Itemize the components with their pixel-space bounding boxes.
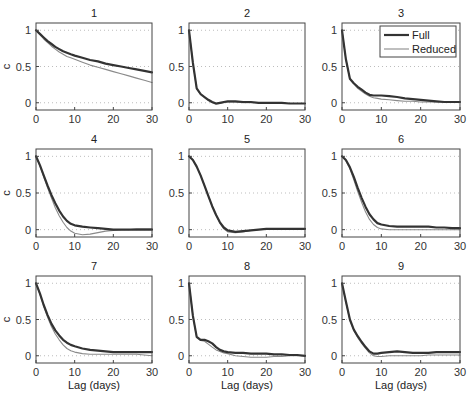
x-tick-label: 20 — [260, 240, 272, 252]
x-axis-label: Lag (days) — [375, 379, 427, 391]
figure-canvas: 010203000.511c010203000.512010203000.513… — [0, 0, 471, 400]
x-tick-label: 30 — [454, 113, 466, 125]
x-tick-label: 10 — [222, 240, 234, 252]
y-tick-label: 0 — [25, 224, 31, 236]
y-tick-label: 0.5 — [16, 314, 31, 326]
x-tick-label: 0 — [339, 113, 345, 125]
series-line-full — [36, 156, 152, 229]
x-tick-label: 30 — [299, 113, 311, 125]
y-tick-label: 0.5 — [169, 314, 184, 326]
legend: FullReduced — [380, 26, 456, 57]
x-tick-label: 10 — [222, 366, 234, 378]
series-line-reduced — [189, 283, 305, 357]
y-tick-label: 1 — [331, 150, 337, 162]
x-tick-label: 0 — [339, 240, 345, 252]
y-tick-label: 0 — [25, 350, 31, 362]
y-tick-label: 0.5 — [322, 314, 337, 326]
y-tick-label: 1 — [178, 24, 184, 36]
y-tick-label: 0 — [178, 97, 184, 109]
series-line-reduced — [189, 156, 305, 232]
x-tick-label: 20 — [107, 240, 119, 252]
y-tick-label: 1 — [25, 24, 31, 36]
series-line-full — [342, 156, 460, 228]
y-tick-label: 0.5 — [322, 61, 337, 73]
y-tick-label: 0 — [331, 350, 337, 362]
x-tick-label: 10 — [69, 366, 81, 378]
y-tick-label: 0 — [25, 97, 31, 109]
subplot-2: 010203000.512 — [169, 7, 311, 125]
y-tick-label: 0.5 — [169, 187, 184, 199]
y-tick-label: 1 — [331, 24, 337, 36]
y-tick-label: 0.5 — [322, 187, 337, 199]
y-tick-label: 1 — [25, 150, 31, 162]
subplot-5: 010203000.515 — [169, 133, 311, 252]
y-tick-label: 0 — [178, 350, 184, 362]
x-axis-label: Lag (days) — [68, 379, 120, 391]
x-tick-label: 20 — [415, 366, 427, 378]
y-tick-label: 1 — [331, 277, 337, 289]
y-tick-label: 0 — [331, 97, 337, 109]
subplot-8: 010203000.518Lag (days) — [169, 260, 311, 391]
x-tick-label: 0 — [186, 366, 192, 378]
x-tick-label: 0 — [186, 113, 192, 125]
y-tick-label: 1 — [25, 277, 31, 289]
x-tick-label: 20 — [415, 113, 427, 125]
x-tick-label: 10 — [69, 113, 81, 125]
x-tick-label: 0 — [33, 240, 39, 252]
subplot-6: 010203000.516 — [322, 133, 466, 252]
x-tick-label: 20 — [107, 113, 119, 125]
subplot-title: 2 — [244, 7, 250, 19]
x-tick-label: 30 — [146, 366, 158, 378]
subplot-title: 3 — [398, 7, 404, 19]
subplot-1: 010203000.511c — [0, 7, 158, 125]
subplot-9: 010203000.519Lag (days) — [322, 260, 466, 391]
x-tick-label: 30 — [454, 366, 466, 378]
subplot-title: 5 — [244, 133, 250, 145]
axes-frame — [189, 23, 305, 110]
x-tick-label: 0 — [186, 240, 192, 252]
x-tick-label: 10 — [375, 240, 387, 252]
x-tick-label: 0 — [33, 366, 39, 378]
series-line-full — [189, 283, 305, 356]
x-tick-label: 20 — [415, 240, 427, 252]
x-tick-label: 30 — [299, 366, 311, 378]
y-tick-label: 0 — [178, 224, 184, 236]
x-tick-label: 20 — [260, 366, 272, 378]
y-tick-label: 0 — [331, 224, 337, 236]
axes-frame — [36, 149, 152, 237]
x-tick-label: 30 — [146, 240, 158, 252]
series-line-reduced — [36, 30, 152, 82]
x-axis-label: Lag (days) — [221, 379, 273, 391]
x-tick-label: 10 — [222, 113, 234, 125]
x-tick-label: 10 — [375, 366, 387, 378]
x-tick-label: 30 — [299, 240, 311, 252]
series-line-full — [36, 283, 152, 352]
x-tick-label: 30 — [454, 240, 466, 252]
y-tick-label: 0.5 — [169, 61, 184, 73]
x-tick-label: 0 — [33, 113, 39, 125]
subplot-title: 6 — [398, 133, 404, 145]
series-line-reduced — [189, 30, 305, 104]
series-line-reduced — [36, 156, 152, 235]
subplot-title: 4 — [91, 133, 97, 145]
legend-label-reduced: Reduced — [412, 43, 456, 55]
x-tick-label: 20 — [260, 113, 272, 125]
subplot-3: 010203000.513FullReduced — [322, 7, 466, 125]
subplot-4: 010203000.514c — [0, 133, 158, 252]
x-tick-label: 30 — [146, 113, 158, 125]
y-axis-label: c — [0, 63, 12, 69]
subplot-title: 7 — [91, 260, 97, 272]
series-line-full — [189, 30, 305, 103]
series-line-full — [342, 283, 460, 353]
x-tick-label: 10 — [69, 240, 81, 252]
y-tick-label: 1 — [178, 150, 184, 162]
subplot-7: 010203000.517cLag (days) — [0, 260, 158, 391]
subplot-title: 8 — [244, 260, 250, 272]
x-tick-label: 0 — [339, 366, 345, 378]
x-tick-label: 10 — [375, 113, 387, 125]
y-axis-label: c — [0, 190, 12, 196]
y-axis-label: c — [0, 316, 12, 322]
y-tick-label: 0.5 — [16, 61, 31, 73]
subplot-title: 9 — [398, 260, 404, 272]
axes-frame — [189, 276, 305, 363]
